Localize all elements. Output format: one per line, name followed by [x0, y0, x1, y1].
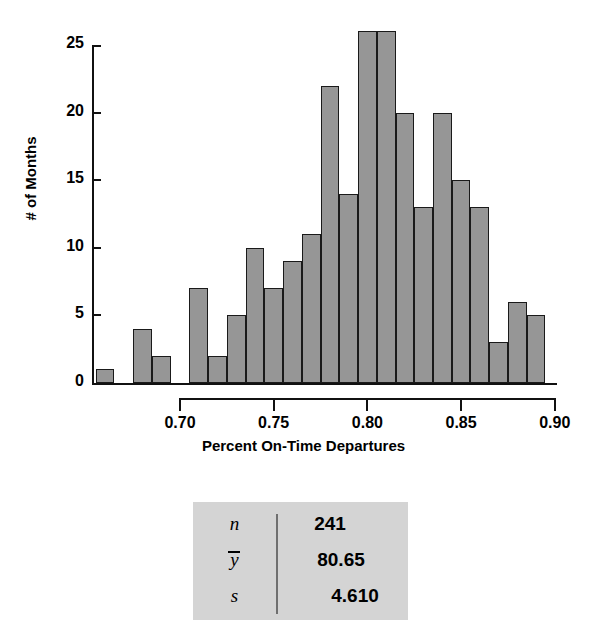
histogram-bar [433, 113, 452, 383]
histogram-bar [133, 329, 152, 383]
histogram-bar [339, 194, 358, 383]
histogram-bar [189, 288, 208, 383]
x-tick-mark [179, 398, 181, 411]
x-tick-label: 0.75 [244, 414, 304, 432]
histogram-bar [470, 207, 489, 383]
x-tick-mark [273, 398, 275, 411]
histogram-figure: # of Months 0510152025 0.700.750.800.850… [0, 0, 607, 626]
x-tick-label: 0.90 [525, 414, 585, 432]
x-tick-label: 0.85 [431, 414, 491, 432]
stat-symbol-ybar: y [193, 549, 276, 571]
histogram-bar [358, 31, 377, 383]
histogram-bar [377, 31, 396, 383]
histogram-bar [283, 261, 302, 383]
stat-value-ybar: 80.65 [276, 549, 408, 571]
stat-value-n: 241 [276, 513, 408, 535]
histogram-bar [246, 248, 265, 383]
overbar-glyph [228, 551, 240, 553]
x-axis-label: Percent On-Time Departures [0, 437, 607, 454]
summary-stats-table: n 241 y 80.65 s 4.610 [193, 502, 408, 620]
histogram-bar [96, 369, 115, 383]
histogram-bar [227, 315, 246, 383]
histogram-bar [452, 180, 471, 383]
histogram-bar [152, 356, 171, 383]
histogram-bars [0, 0, 607, 400]
histogram-bar [508, 302, 527, 383]
x-tick-mark [554, 398, 556, 411]
stat-symbol-n: n [193, 513, 276, 535]
histogram-bar [208, 356, 227, 383]
histogram-bar [489, 342, 508, 383]
x-tick-mark [366, 398, 368, 411]
x-tick-label: 0.70 [150, 414, 210, 432]
table-row: y 80.65 [193, 542, 408, 578]
x-tick-label: 0.80 [337, 414, 397, 432]
histogram-bar [264, 288, 283, 383]
histogram-bar [527, 315, 546, 383]
x-baseline [101, 383, 557, 385]
x-tick-mark [460, 398, 462, 411]
histogram-bar [321, 86, 340, 383]
histogram-bar [396, 113, 415, 383]
stat-value-s: 4.610 [276, 585, 408, 607]
stat-symbol-s: s [193, 585, 276, 607]
chart-area: # of Months 0510152025 0.700.750.800.850… [0, 0, 607, 470]
histogram-bar [414, 207, 433, 383]
table-row: s 4.610 [193, 578, 408, 614]
table-row: n 241 [193, 506, 408, 542]
histogram-bar [302, 234, 321, 383]
